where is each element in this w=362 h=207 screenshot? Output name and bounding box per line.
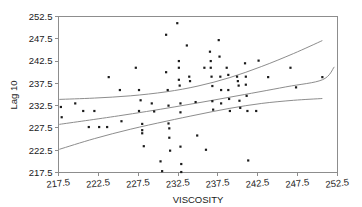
data-point <box>135 67 137 69</box>
x-axis-ticks: 217.5222.5227.5232.5237.5242.5247.5252.5 <box>46 173 350 190</box>
data-point <box>93 110 95 112</box>
y-tick-label: 222.5 <box>29 145 53 156</box>
y-tick-label: 242.5 <box>29 55 53 66</box>
data-point <box>220 89 222 91</box>
y-tick-label: 227.5 <box>29 122 53 133</box>
y-tick-label: 217.5 <box>29 167 53 178</box>
data-point <box>165 34 167 36</box>
data-point <box>179 146 181 148</box>
data-point <box>141 132 143 134</box>
data-point <box>178 79 180 81</box>
data-point <box>210 67 212 69</box>
data-point <box>179 102 181 104</box>
x-tick-label: 232.5 <box>165 176 190 189</box>
data-point <box>180 171 182 173</box>
data-point <box>186 44 188 46</box>
data-point <box>295 86 297 88</box>
data-point <box>219 76 221 78</box>
data-point <box>159 160 161 162</box>
data-point <box>119 89 121 91</box>
data-point <box>108 76 110 78</box>
data-point <box>203 67 205 69</box>
data-point <box>165 71 167 73</box>
data-point <box>167 122 169 124</box>
data-point <box>61 116 63 118</box>
data-point <box>141 129 143 131</box>
data-point <box>228 98 230 100</box>
data-point <box>180 163 182 165</box>
x-tick-label: 217.5 <box>46 176 71 189</box>
x-tick-label: 222.5 <box>86 176 111 189</box>
data-point <box>167 105 169 107</box>
data-point <box>267 76 269 78</box>
data-point <box>238 100 240 102</box>
data-point <box>237 80 239 82</box>
y-tick-label: 252.5 <box>29 11 53 22</box>
x-tick-label: 247.5 <box>285 176 310 189</box>
data-point <box>60 106 62 108</box>
data-point <box>179 84 181 86</box>
x-tick-label: 227.5 <box>125 176 150 189</box>
data-point <box>141 123 143 125</box>
data-point <box>120 120 122 122</box>
data-point <box>246 110 248 112</box>
data-point <box>227 74 229 76</box>
x-tick-label: 252.5 <box>325 176 350 189</box>
data-point <box>211 85 213 87</box>
data-point <box>244 62 246 64</box>
scatter-plot-figure: 217.5222.5227.5232.5237.5242.5247.5252.5… <box>0 0 362 207</box>
data-point <box>106 126 108 128</box>
upper-confidence-band <box>59 41 322 100</box>
data-point <box>245 84 247 86</box>
regression-line <box>59 67 334 124</box>
data-point <box>167 89 169 91</box>
plot-frame <box>59 17 338 173</box>
x-axis-label: VISCOSITY <box>173 194 224 205</box>
data-point <box>98 126 100 128</box>
x-tick-label: 237.5 <box>205 176 230 189</box>
data-point <box>321 76 323 78</box>
data-point <box>74 102 76 104</box>
data-point <box>227 89 229 91</box>
data-point <box>226 67 228 69</box>
data-point <box>153 110 155 112</box>
data-point <box>209 51 211 53</box>
data-point <box>151 102 153 104</box>
data-point <box>220 102 222 104</box>
data-point <box>196 134 198 136</box>
x-tick-label: 242.5 <box>245 176 270 189</box>
data-point <box>255 110 257 112</box>
data-point <box>178 60 180 62</box>
data-point <box>210 60 212 62</box>
data-point <box>210 76 212 78</box>
fit-curves <box>59 41 334 150</box>
data-point <box>140 99 142 101</box>
data-point <box>188 76 190 78</box>
data-point <box>239 107 241 109</box>
data-point <box>211 100 213 102</box>
y-tick-label: 232.5 <box>29 100 53 111</box>
data-point <box>178 67 180 69</box>
chart-canvas: 217.5222.5227.5232.5237.5242.5247.5252.5… <box>0 0 362 207</box>
data-point <box>245 76 247 78</box>
data-point <box>238 84 240 86</box>
data-point <box>289 67 291 69</box>
data-point <box>246 95 248 97</box>
data-point <box>218 39 220 41</box>
data-point <box>247 159 249 161</box>
y-tick-label: 247.5 <box>29 33 53 44</box>
y-axis-label: Lag 10 <box>8 80 19 109</box>
data-point <box>218 56 220 58</box>
data-point <box>179 111 181 113</box>
y-tick-label: 237.5 <box>29 78 53 89</box>
data-point <box>168 127 170 129</box>
data-point <box>257 60 259 62</box>
lower-confidence-band <box>59 99 322 150</box>
data-point <box>138 110 140 112</box>
y-axis-ticks: 217.5222.5227.5232.5237.5242.5247.5252.5 <box>29 11 59 178</box>
data-point <box>82 110 84 112</box>
data-point <box>189 80 191 82</box>
data-point <box>143 145 145 147</box>
data-point <box>168 137 170 139</box>
data-point <box>205 149 207 151</box>
